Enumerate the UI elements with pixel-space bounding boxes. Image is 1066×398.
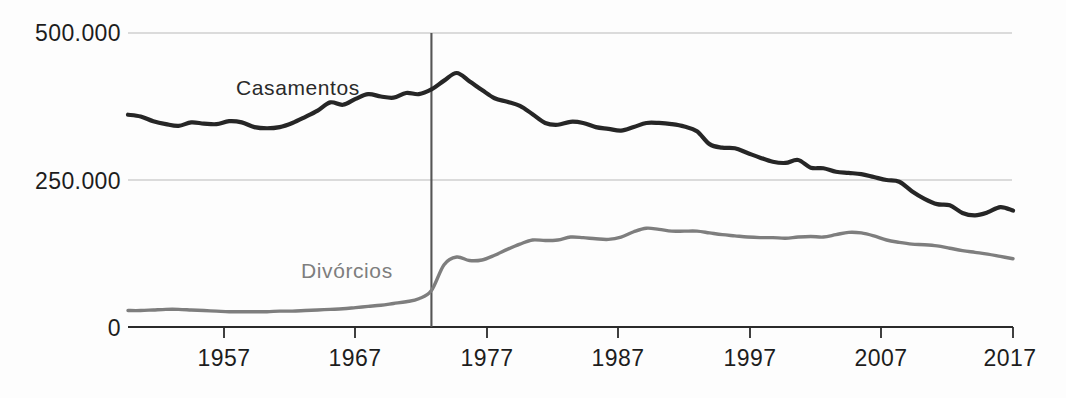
x-tick-label-1997: 1997 bbox=[724, 345, 777, 371]
x-axis-tick-labels: 1957 1967 1977 1987 1997 2007 2017 bbox=[198, 345, 1037, 371]
y-axis-tick-labels: 500.000 250.000 0 bbox=[35, 20, 121, 341]
chart-figure: 500.000 250.000 0 1957 1967 1977 1987 19… bbox=[0, 0, 1066, 398]
y-tick-label-250000: 250.000 bbox=[35, 168, 121, 194]
x-tick-label-1987: 1987 bbox=[592, 345, 645, 371]
divorces-line bbox=[128, 228, 1013, 312]
x-tick-label-1967: 1967 bbox=[329, 345, 382, 371]
line-chart: 500.000 250.000 0 1957 1967 1977 1987 19… bbox=[0, 0, 1066, 398]
divorces-series-label: Divórcios bbox=[301, 259, 393, 282]
x-tick-label-1977: 1977 bbox=[461, 345, 514, 371]
marriages-series-label: Casamentos bbox=[236, 76, 360, 99]
x-tick-label-2007: 2007 bbox=[855, 345, 908, 371]
x-tick-label-2017: 2017 bbox=[984, 345, 1037, 371]
x-tick-label-1957: 1957 bbox=[198, 345, 251, 371]
gridlines bbox=[128, 33, 1012, 180]
x-axis bbox=[128, 327, 1013, 338]
y-tick-label-500000: 500.000 bbox=[35, 20, 121, 46]
y-tick-label-0: 0 bbox=[108, 315, 121, 341]
